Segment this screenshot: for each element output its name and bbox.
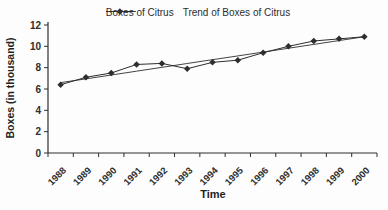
line-marker-icon	[106, 7, 136, 16]
y-tick-label: 2	[35, 126, 41, 137]
y-tick-label: 10	[30, 41, 42, 52]
legend: Boxes of Citrus Trend of Boxes of Citrus	[106, 7, 290, 18]
x-tick-label: 1999	[324, 165, 347, 188]
data-point-marker	[133, 61, 140, 68]
y-tick-label: 8	[35, 62, 41, 73]
data-point-marker	[310, 38, 317, 45]
chart-plot-area: 0246810121988198919901991199219931994199…	[0, 0, 388, 210]
x-tick-label: 2000	[349, 165, 372, 188]
y-tick-label: 0	[35, 148, 41, 159]
data-point-marker	[184, 65, 191, 72]
citrus-line-chart: 0246810121988198919901991199219931994199…	[0, 0, 388, 210]
x-tick-label: 1992	[147, 165, 170, 188]
x-tick-label: 1994	[197, 164, 220, 187]
x-tick-label: 1996	[248, 165, 271, 188]
y-axis-title: Boxes (in thousand)	[4, 38, 16, 139]
x-tick-label: 1990	[96, 165, 119, 188]
x-axis-title: Time	[200, 188, 225, 200]
x-tick-label: 1991	[121, 164, 144, 187]
data-point-marker	[235, 57, 242, 64]
data-point-marker	[159, 60, 166, 67]
x-tick-label: 1993	[172, 165, 195, 188]
x-tick-label: 1989	[71, 165, 94, 188]
x-tick-label: 1988	[45, 165, 68, 188]
y-tick-label: 12	[30, 20, 42, 31]
x-tick-label: 1995	[222, 164, 245, 187]
x-tick-label: 1997	[273, 165, 296, 188]
legend-label-trend: Trend of Boxes of Citrus	[183, 7, 290, 18]
x-tick-label: 1998	[298, 165, 321, 188]
y-tick-label: 4	[35, 105, 41, 116]
series-trend-line	[61, 37, 365, 83]
y-tick-label: 6	[35, 84, 41, 95]
legend-item-trend: Trend of Boxes of Citrus	[183, 7, 290, 18]
